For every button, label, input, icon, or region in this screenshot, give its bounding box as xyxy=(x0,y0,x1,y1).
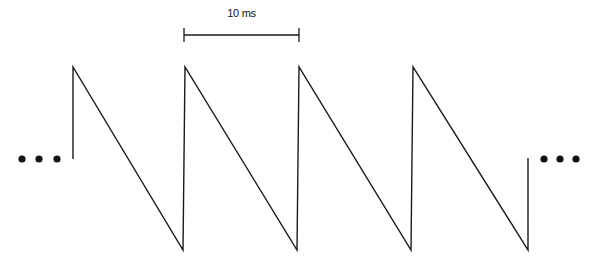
sawtooth-diagram xyxy=(0,0,596,267)
ellipsis-right-icon xyxy=(540,155,579,162)
sawtooth-waveform xyxy=(73,67,528,250)
ellipsis-left-icon xyxy=(18,155,60,162)
scale-bar xyxy=(184,28,299,42)
